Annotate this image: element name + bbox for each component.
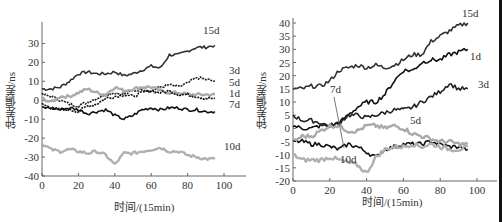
y-tick-label: 25 [279,57,291,69]
series-line-10d [293,143,468,172]
x-tick-label: 100 [469,184,486,196]
series-label-5d: 5d [410,114,422,126]
series-line-1d [293,49,468,130]
right-x-axis-label: 时间/(15min) [362,193,423,209]
series-line-3d [293,84,468,127]
x-tick-label: 20 [324,184,336,196]
series-label-3d: 3d [478,78,490,90]
y-tick-label: 0 [285,122,291,134]
series-label-15d: 15d [462,7,479,19]
x-tick-label: 0 [290,184,296,196]
y-tick-label: -10 [275,149,290,161]
y-tick-label: -5 [281,136,291,148]
y-tick-label: 5 [285,109,291,121]
x-tick-label: 80 [435,184,447,196]
y-tick-label: 20 [279,70,291,82]
y-tick-label: 30 [279,43,291,55]
y-tick-label: -15 [275,162,290,174]
right-y-axis-label: 钟差偏差/ns [254,72,270,129]
y-tick-label: 15 [279,83,291,95]
left-x-axis-label: 时间/(15min) [114,198,175,214]
series-label-10d: 10d [340,153,357,165]
figure: -40-30-20-10010203002040608010015d3d5d1d… [0,0,502,222]
chart-right-clock-offset: -20-15-10-505101520253035400204060801001… [0,0,499,222]
y-tick-label: 35 [279,30,291,42]
y-tick-label: 10 [279,96,291,108]
y-tick-label: 40 [279,17,291,29]
plot-area: -20-15-10-505101520253035400204060801001… [275,7,497,196]
y-tick-label: -20 [275,175,290,187]
left-y-axis-label: 钟差偏差/ns [3,72,19,129]
series-label-1d: 1d [470,50,482,62]
series-line-15d [293,23,468,89]
series-label-7d: 7d [330,83,342,95]
